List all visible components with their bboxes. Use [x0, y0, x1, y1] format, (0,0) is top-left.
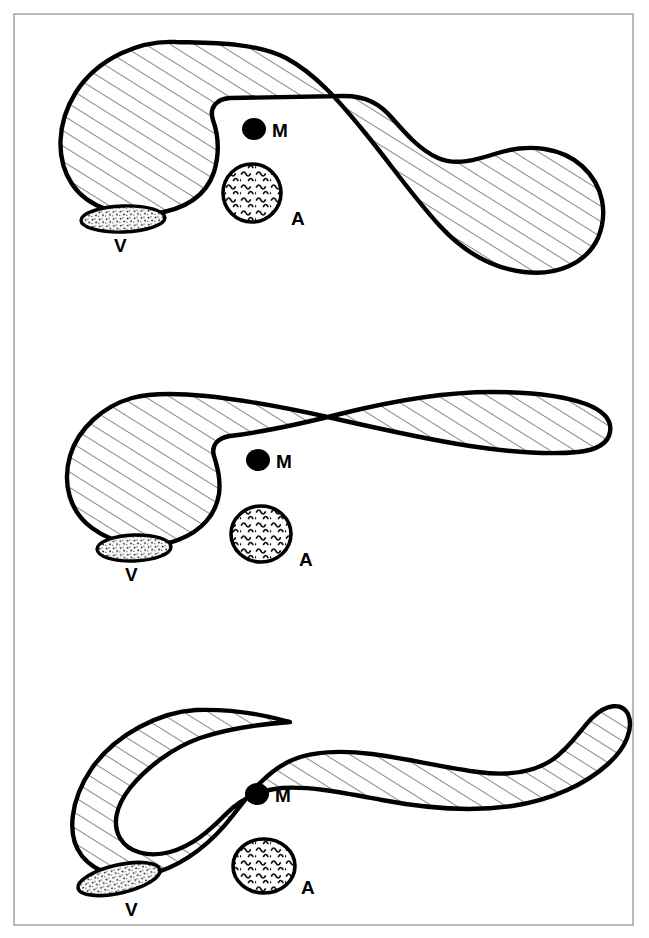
wavy-filled-circle [233, 839, 295, 893]
label-a: A [299, 549, 313, 570]
figure-root: M A V M A [0, 0, 649, 938]
label-v: V [125, 899, 138, 920]
panel-top: M A V [60, 42, 603, 273]
solid-dot-marker [245, 783, 269, 805]
solid-dot-marker [242, 118, 266, 140]
panel-top-body [60, 42, 603, 273]
label-a: A [291, 208, 305, 229]
panel-top-m-marker: M [242, 118, 288, 141]
stippled-ellipse [81, 205, 166, 234]
panel-middle-m-marker: M [246, 449, 292, 472]
panel-top-a-marker: A [223, 164, 305, 229]
panel-middle-body [67, 392, 610, 545]
label-m: M [275, 785, 291, 806]
panel-bottom-a-marker: A [233, 839, 315, 898]
wavy-filled-circle [223, 164, 281, 222]
diagram-canvas: M A V M A [0, 0, 649, 938]
panel-middle-v-marker: V [97, 534, 172, 585]
label-m: M [276, 451, 292, 472]
panel-top-v-marker: V [81, 205, 166, 256]
panel-middle: M A V [67, 392, 610, 585]
stippled-ellipse [97, 534, 172, 563]
label-a: A [301, 877, 315, 898]
wavy-filled-circle [231, 506, 291, 562]
label-m: M [272, 120, 288, 141]
solid-dot-marker [246, 449, 270, 471]
label-v: V [125, 564, 138, 585]
panel-bottom: M A V [72, 706, 630, 920]
panel-bottom-v-marker: V [75, 856, 163, 920]
panel-bottom-body [72, 706, 630, 877]
label-v: V [114, 235, 127, 256]
panel-middle-a-marker: A [231, 506, 313, 570]
